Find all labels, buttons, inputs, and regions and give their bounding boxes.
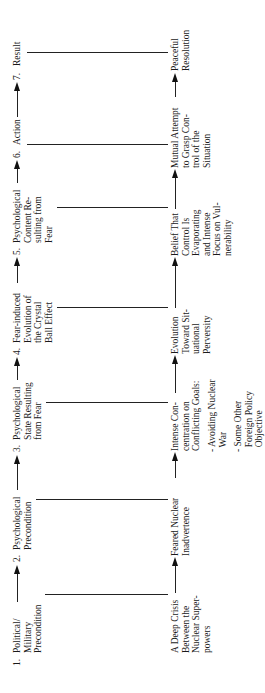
stage-4-number: 4. <box>12 348 23 355</box>
connector-1 <box>45 594 168 595</box>
stage-6-label: Action <box>12 119 23 145</box>
stage-2-number: 2. <box>12 555 23 562</box>
arrow-icon <box>172 257 178 266</box>
arrow-icon <box>172 355 178 364</box>
stage-3-number: 3. <box>12 445 23 452</box>
outcome-3-to-4-line <box>175 363 176 393</box>
arrow-icon <box>172 169 178 178</box>
arrow-icon <box>14 357 20 366</box>
arrow-icon <box>14 565 20 574</box>
arrow-icon <box>14 82 20 91</box>
stage-7-number: 7. <box>12 73 23 80</box>
stage-3-label: Psychological State Resulting from Fear <box>12 382 44 440</box>
stage-1-label: Political/ Military Precondition <box>12 604 44 653</box>
arrow-icon <box>172 557 178 566</box>
stage-5-number: 5. <box>12 248 23 255</box>
arrow-icon <box>14 257 20 266</box>
inadvertence-flow-diagram: 1. Political/ Military Precondition 2. P… <box>0 0 265 693</box>
connector-3 <box>46 402 168 403</box>
stage-1-to-2-line <box>17 574 18 602</box>
connector-4 <box>57 307 168 308</box>
stage-3-to-4-line <box>17 364 18 380</box>
stage-5-label: Psychological Content Re- sulting from F… <box>12 190 54 243</box>
arrow-icon <box>172 452 178 461</box>
stage-6-to-7-line <box>17 90 18 117</box>
outcome-1-to-2-line <box>175 565 176 593</box>
outcome-6: Mutual Attempt to Grasp Con- trol of the… <box>170 108 212 168</box>
stage-2-to-3-line <box>17 464 18 490</box>
outcome-7: Peaceful Resolution <box>170 30 191 71</box>
stage-2-label: Psychological Precondition <box>12 497 33 550</box>
outcome-6-to-7-line <box>175 81 176 97</box>
outcome-5-to-6-line <box>175 177 176 209</box>
connector-5 <box>57 207 168 208</box>
stage-4-to-5-line <box>17 265 18 283</box>
connector-6 <box>27 144 168 145</box>
stage-5-to-6-line <box>17 167 18 183</box>
arrow-icon <box>172 73 178 82</box>
outcome-4: Evolution Toward Sit- uational Perversit… <box>170 309 212 354</box>
stage-4-label: Fear-induced Evolution of the Crystal Ba… <box>12 293 54 343</box>
outcome-2: Feared Nuclear Inadvertence <box>170 498 191 556</box>
stage-7-label: Result <box>12 42 23 66</box>
connector-7 <box>27 52 168 53</box>
goal-avoid-nuclear-war: - Avoiding Nuclear War <box>207 379 228 452</box>
outcome-4-to-5-line <box>175 265 176 308</box>
connector-2 <box>36 499 168 500</box>
arrow-icon <box>14 455 20 464</box>
stage-1-number: 1. <box>12 659 23 666</box>
stage-6-number: 6. <box>12 151 23 158</box>
goal-foreign-policy-objective: - Some Other Foreign Policy Objective <box>233 391 265 452</box>
outcome-1: A Deep Crisis Between the Nuclear Super-… <box>170 595 212 653</box>
arrow-icon <box>14 160 20 169</box>
outcome-5: Belief That Control Is Evaporating and I… <box>170 202 233 256</box>
outcome-2-to-3-line <box>175 460 176 478</box>
